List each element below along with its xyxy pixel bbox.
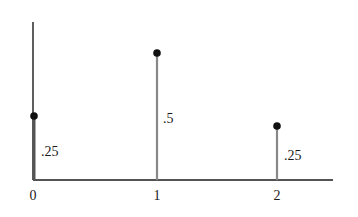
marker-2: [273, 122, 281, 130]
marker-1: [153, 49, 161, 57]
value-label-1: .5: [163, 111, 174, 126]
value-label-0: .25: [41, 144, 59, 159]
marker-0: [30, 112, 38, 120]
value-label-2: .25: [284, 148, 302, 163]
x-tick-label-1: 1: [154, 188, 161, 203]
x-tick-label-2: 2: [274, 188, 281, 203]
stem-2: .25: [273, 122, 301, 180]
x-tick-label-0: 0: [30, 188, 37, 203]
stem-chart: .25 .5 .25 0 1 2: [0, 0, 358, 217]
stem-1: .5: [153, 49, 173, 180]
stem-0: .25: [30, 112, 58, 180]
